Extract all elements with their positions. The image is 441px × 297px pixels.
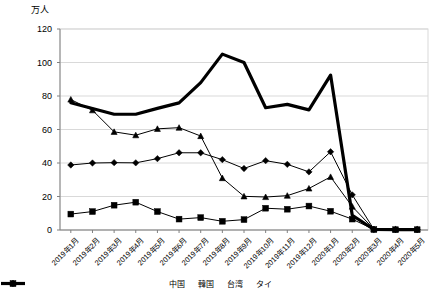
legend-label: 中国 bbox=[169, 278, 185, 289]
legend-label: 台湾 bbox=[227, 278, 243, 289]
legend-item-3[interactable]: 台湾 bbox=[227, 278, 243, 289]
legend-item-4[interactable]: タイ bbox=[256, 278, 272, 289]
legend-label: タイ bbox=[256, 278, 272, 289]
chart-legend: 中国韓国台湾タイ bbox=[0, 278, 441, 289]
legend-marker-square-icon bbox=[0, 278, 26, 289]
line-chart: 万人 120100806040200 2019年1月2019年2月2019年3月… bbox=[0, 0, 441, 297]
legend-item-1[interactable]: 中国 bbox=[169, 278, 185, 289]
legend-label: 韓国 bbox=[198, 278, 214, 289]
legend-item-2[interactable]: 韓国 bbox=[198, 278, 214, 289]
plot-area bbox=[0, 0, 441, 297]
